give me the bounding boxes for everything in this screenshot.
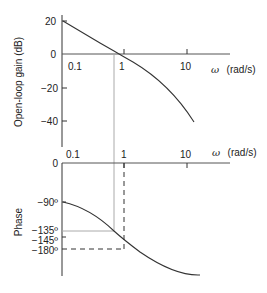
gain-xlabel: ω (rad/s) [211,59,256,76]
phase-plot: 0.1 1 10 ω (rad/s) 0 −90º −135º −145º −1… [13,142,257,276]
phase-xtick-1: 1 [121,149,127,160]
phase-xtick-0.1: 0.1 [66,149,80,160]
gain-xtick-0.1: 0.1 [68,61,82,72]
phase-xlabel: ω (rad/s) [212,142,257,159]
gain-ytick-neg40: −40 [41,116,58,127]
phase-xtick-10: 10 [180,149,192,160]
phase-curve [63,202,200,275]
gain-ytick-20: 20 [45,16,57,27]
gain-xtick-1: 1 [119,61,125,72]
phase-ytick-180: −180º [32,245,59,256]
gain-curve [63,21,194,122]
gain-ytick-neg20: −20 [41,83,58,94]
phase-ylabel: Phase [13,207,24,236]
gain-ylabel: Open-loop gain (dB) [13,37,24,127]
phase-ytick-0: 0 [52,158,58,169]
gain-xtick-10: 10 [180,61,192,72]
phase-ytick-90: −90º [37,197,58,208]
gain-ytick-0: 0 [50,49,56,60]
bode-plot: 20 0 −20 −40 0.1 1 10 ω (rad/s) Open-loo… [0,0,267,293]
